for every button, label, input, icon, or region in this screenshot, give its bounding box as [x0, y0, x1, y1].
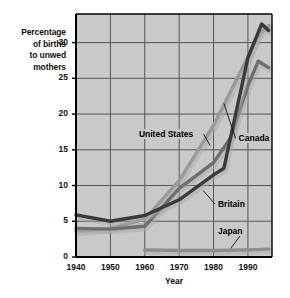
series-line-japan [145, 249, 269, 250]
x-tick-label: 1940 [60, 262, 92, 272]
y-tick-label: 20 [46, 108, 68, 118]
series-label-britain: Britain [217, 199, 246, 209]
y-tick-label: 15 [46, 144, 68, 154]
x-tick-label: 1990 [232, 262, 264, 272]
y-tick-label: 25 [46, 72, 68, 82]
series-label-canada: Canada [238, 133, 271, 143]
chart-container: Percentage of births to unwed mothers 05… [0, 0, 290, 298]
x-tick-label: 1970 [163, 262, 195, 272]
y-tick-label: 10 [46, 180, 68, 190]
x-tick-label: 1980 [198, 262, 230, 272]
y-tick-label: 30 [46, 37, 68, 47]
x-axis-title: Year [76, 276, 272, 286]
x-tick-label: 1960 [129, 262, 161, 272]
x-tick-label: 1950 [94, 262, 126, 272]
series-label-united-states: United States [138, 129, 194, 139]
y-tick-label: 5 [46, 215, 68, 225]
plot-area [0, 0, 290, 298]
series-label-japan: Japan [217, 226, 244, 236]
y-tick-label: 0 [46, 251, 68, 261]
